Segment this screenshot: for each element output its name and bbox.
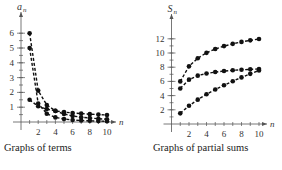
data-point bbox=[195, 56, 200, 61]
data-point bbox=[213, 87, 218, 92]
data-point bbox=[257, 68, 262, 73]
data-point bbox=[230, 68, 235, 73]
data-point bbox=[213, 70, 218, 75]
series-line bbox=[180, 70, 259, 113]
data-point bbox=[79, 111, 84, 116]
data-point bbox=[222, 44, 227, 49]
y-axis-label: a bbox=[17, 1, 22, 12]
y-tick-label: 6 bbox=[10, 28, 15, 38]
x-axis-arrow-icon bbox=[262, 122, 267, 126]
data-point bbox=[53, 109, 58, 114]
figure: 246810123456nan24681024681012nSn Graphs … bbox=[0, 0, 282, 170]
x-tick-label: 8 bbox=[239, 129, 244, 139]
data-point bbox=[257, 37, 262, 42]
y-tick-label: 4 bbox=[10, 58, 15, 68]
data-point bbox=[27, 31, 32, 36]
data-point bbox=[248, 38, 253, 43]
caption-partial-sums: Graphs of partial sums bbox=[153, 142, 248, 153]
data-point bbox=[105, 113, 110, 118]
data-point bbox=[204, 71, 209, 76]
y-axis-label: S bbox=[168, 3, 173, 14]
data-point bbox=[187, 77, 192, 82]
data-point bbox=[96, 112, 101, 117]
data-point bbox=[62, 110, 67, 115]
data-point bbox=[248, 67, 253, 72]
y-tick-label: 3 bbox=[10, 73, 15, 83]
y-tick-label: 8 bbox=[160, 62, 165, 72]
x-tick-label: 10 bbox=[255, 129, 265, 139]
x-tick-label: 2 bbox=[187, 129, 192, 139]
x-axis-label: n bbox=[270, 119, 275, 129]
svg-text:n: n bbox=[174, 8, 178, 16]
data-point bbox=[230, 42, 235, 47]
y-tick-label: 10 bbox=[156, 48, 166, 58]
data-point bbox=[70, 111, 75, 116]
data-point bbox=[204, 92, 209, 97]
data-point bbox=[178, 86, 183, 91]
data-point bbox=[36, 104, 41, 109]
data-point bbox=[79, 118, 84, 123]
data-point bbox=[213, 47, 218, 52]
series-line bbox=[30, 48, 107, 121]
data-point bbox=[222, 69, 227, 74]
y-tick-label: 2 bbox=[160, 105, 165, 115]
data-point bbox=[88, 119, 93, 124]
data-point bbox=[27, 98, 32, 103]
y-tick-label: 4 bbox=[160, 91, 165, 101]
data-point bbox=[195, 73, 200, 78]
x-axis-label: n bbox=[119, 117, 124, 127]
data-point bbox=[96, 119, 101, 124]
data-point bbox=[45, 103, 50, 108]
data-point bbox=[45, 107, 50, 112]
x-tick-label: 6 bbox=[222, 129, 227, 139]
x-tick-label: 8 bbox=[88, 127, 93, 137]
y-tick-label: 2 bbox=[10, 87, 15, 97]
data-point bbox=[105, 119, 110, 124]
x-tick-label: 4 bbox=[204, 129, 209, 139]
y-tick-label: 12 bbox=[156, 34, 165, 44]
data-point bbox=[248, 72, 253, 77]
caption-terms: Graphs of terms bbox=[4, 142, 72, 153]
data-point bbox=[239, 75, 244, 80]
data-point bbox=[204, 51, 209, 56]
y-tick-label: 6 bbox=[160, 76, 165, 86]
y-tick-label: 1 bbox=[10, 102, 15, 112]
svg-text:n: n bbox=[23, 6, 27, 14]
data-point bbox=[230, 79, 235, 84]
data-point bbox=[88, 112, 93, 117]
data-point bbox=[62, 117, 67, 122]
data-point bbox=[70, 118, 75, 123]
y-tick-label: 5 bbox=[10, 43, 15, 53]
series-line bbox=[180, 69, 259, 89]
x-tick-label: 4 bbox=[53, 127, 58, 137]
data-point bbox=[45, 111, 50, 116]
x-axis-arrow-icon bbox=[111, 120, 116, 124]
x-tick-label: 10 bbox=[103, 127, 113, 137]
data-point bbox=[178, 111, 183, 116]
x-tick-label: 2 bbox=[36, 127, 41, 137]
data-point bbox=[178, 79, 183, 84]
data-point bbox=[187, 104, 192, 109]
data-point bbox=[195, 97, 200, 102]
data-point bbox=[53, 115, 58, 120]
data-point bbox=[222, 83, 227, 88]
data-point bbox=[239, 67, 244, 72]
x-tick-label: 6 bbox=[70, 127, 75, 137]
data-point bbox=[187, 64, 192, 69]
data-point bbox=[239, 40, 244, 45]
data-point bbox=[27, 46, 32, 51]
